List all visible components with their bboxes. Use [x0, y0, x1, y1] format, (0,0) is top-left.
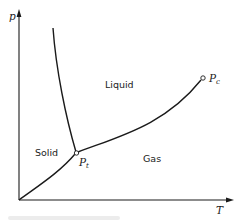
sublimation-curve: [19, 154, 75, 200]
caption-fragment: [8, 216, 120, 220]
critical-point-marker-icon: [201, 76, 205, 80]
region-label-gas: Gas: [143, 153, 161, 164]
triple-point-marker-icon: [74, 151, 78, 155]
triple-point-subscript: t: [86, 162, 89, 170]
region-label-liquid: Liquid: [105, 79, 134, 90]
x-axis-arrow-icon: [226, 198, 234, 203]
x-axis: T: [19, 198, 234, 216]
x-axis-label: T: [216, 204, 224, 216]
triple-point: P t: [74, 151, 89, 170]
y-axis-label: p: [9, 10, 16, 22]
y-axis-arrow-icon: [17, 9, 22, 17]
critical-point: P c: [201, 72, 220, 86]
vaporization-curve: [78, 80, 201, 152]
melting-curve: [53, 28, 76, 152]
phase-diagram: p T P t P c Liquid Solid Gas: [0, 0, 237, 224]
region-label-solid: Solid: [35, 147, 58, 158]
critical-point-subscript: c: [216, 78, 220, 86]
y-axis: p: [9, 9, 21, 200]
